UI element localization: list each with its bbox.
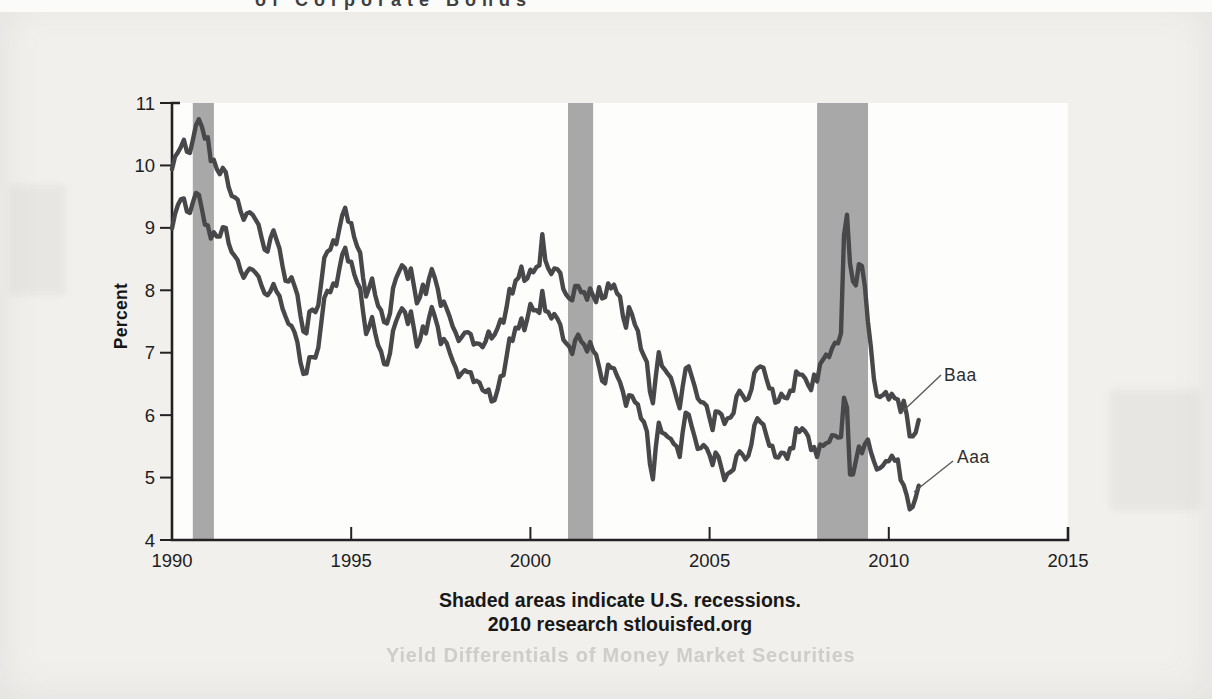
scanned-page: of Corporate Bonds 456789101119901995200… <box>0 0 1212 699</box>
ghost-margin-smudge <box>10 185 65 295</box>
x-tick-label: 2015 <box>1047 550 1088 571</box>
recession-band <box>193 103 214 540</box>
x-tick-label: 2010 <box>868 550 909 571</box>
x-tick-label: 1995 <box>331 550 372 571</box>
series-label-baa: Baa <box>944 365 977 386</box>
recession-note: Shaded areas indicate U.S. recessions. <box>172 589 1068 612</box>
x-tick-label: 2005 <box>689 550 730 571</box>
x-tick-label: 1990 <box>151 550 192 571</box>
series-label-aaa: Aaa <box>957 447 990 468</box>
y-tick-label: 8 <box>145 280 155 301</box>
recession-band <box>568 103 593 540</box>
y-axis-title: Percent <box>111 283 132 349</box>
y-tick-label: 5 <box>145 467 155 488</box>
y-tick-label: 11 <box>136 93 155 114</box>
y-tick-label: 7 <box>145 342 155 363</box>
x-tick-label: 2000 <box>510 550 551 571</box>
y-tick-label: 4 <box>145 530 155 551</box>
source-note: 2010 research stlouisfed.org <box>172 613 1068 636</box>
y-tick-label: 10 <box>134 155 155 176</box>
ghost-margin-smudge <box>1110 390 1200 510</box>
ghost-bleed-heading: Yield Differentials of Money Market Secu… <box>386 644 856 667</box>
y-tick-label: 6 <box>145 405 155 426</box>
y-tick-label: 9 <box>145 217 155 238</box>
